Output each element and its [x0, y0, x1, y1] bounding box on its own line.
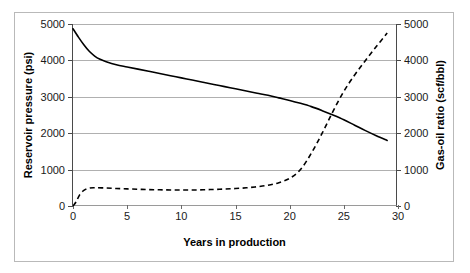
left-tick-label: 1000 [41, 164, 65, 175]
right-tick-label: 0 [404, 201, 410, 212]
x-tick-label: 30 [392, 211, 404, 222]
right-tick-label: 4000 [404, 55, 428, 66]
plot-area: 010002000300040005000 010002000300040005… [72, 24, 397, 206]
right-axis-title-text: Gas-oil ratio (scf/bbl) [434, 60, 446, 170]
series-gas-oil-ratio-line [73, 33, 387, 206]
x-tick-label: 20 [284, 211, 296, 222]
right-tick-label: 5000 [404, 19, 428, 30]
x-tick-mark [398, 205, 399, 209]
left-axis-title-text: Reservoir pressure (psi) [22, 52, 34, 179]
right-tick-label: 1000 [404, 164, 428, 175]
x-tick-label: 5 [124, 211, 130, 222]
x-tick-label: 0 [70, 211, 76, 222]
left-tick-label: 2000 [41, 128, 65, 139]
x-tick-label: 15 [229, 211, 241, 222]
left-tick-label: 3000 [41, 91, 65, 102]
series-reservoir-pressure-line [73, 29, 387, 141]
x-axis-title: Years in production [72, 236, 397, 248]
left-tick-label: 0 [59, 201, 65, 212]
series-lines [73, 24, 398, 206]
right-tick-label: 3000 [404, 91, 428, 102]
left-tick-label: 4000 [41, 55, 65, 66]
right-tick-label: 2000 [404, 128, 428, 139]
x-tick-label: 10 [175, 211, 187, 222]
chart-figure: Reservoir pressure (psi) Gas-oil ratio (… [0, 0, 470, 273]
x-tick-label: 25 [338, 211, 350, 222]
left-axis-title: Reservoir pressure (psi) [20, 24, 36, 206]
left-tick-label: 5000 [41, 19, 65, 30]
right-axis-title: Gas-oil ratio (scf/bbl) [432, 24, 448, 206]
